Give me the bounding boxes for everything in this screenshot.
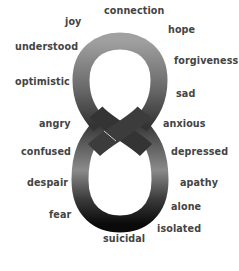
word-label-sad: sad — [176, 89, 195, 99]
word-label-optimistic: optimistic — [15, 77, 70, 87]
word-label-connection: connection — [104, 6, 164, 16]
word-label-apathy: apathy — [180, 178, 218, 188]
word-label-alone: alone — [171, 202, 201, 212]
word-label-anxious: anxious — [163, 119, 206, 129]
word-label-depressed: depressed — [171, 147, 228, 157]
word-label-joy: joy — [65, 17, 81, 27]
word-label-forgiveness: forgiveness — [174, 56, 238, 66]
word-label-isolated: isolated — [157, 224, 201, 234]
word-label-despair: despair — [27, 178, 68, 188]
word-label-suicidal: suicidal — [103, 234, 145, 244]
word-label-angry: angry — [39, 119, 71, 129]
word-label-understood: understood — [15, 42, 78, 52]
word-label-fear: fear — [49, 210, 71, 220]
top-loop — [81, 41, 159, 126]
word-label-hope: hope — [168, 25, 195, 35]
word-label-confused: confused — [21, 147, 71, 157]
